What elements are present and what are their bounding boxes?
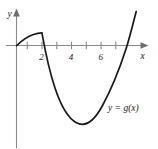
- y-axis-label: y: [7, 9, 13, 19]
- x-axis-arrowhead: [141, 42, 149, 49]
- y-axis-arrowhead: [13, 9, 20, 17]
- graph-figure: 2 4 6 y x y = g(x): [0, 0, 158, 148]
- y-axis: [13, 9, 20, 149]
- curve-left-branch: [17, 33, 42, 46]
- x-tick-label-6: 6: [98, 52, 103, 62]
- x-tick-label-2: 2: [39, 52, 44, 62]
- x-tick-label-4: 4: [69, 52, 74, 62]
- x-axis-label: x: [140, 51, 146, 61]
- function-label: y = g(x): [107, 103, 139, 114]
